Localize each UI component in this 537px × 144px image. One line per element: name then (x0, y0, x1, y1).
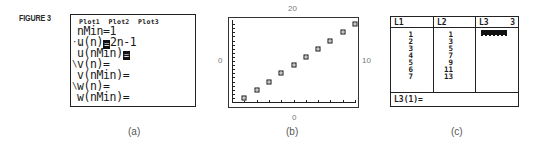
data-point (291, 63, 296, 68)
y-tick (232, 24, 235, 25)
caption-a: (a) (128, 126, 140, 137)
y-tick (232, 86, 235, 87)
caption-c: (c) (451, 126, 463, 137)
l3-cursor[interactable] (481, 30, 507, 35)
entry-line[interactable]: L3(1)= (394, 95, 423, 104)
graph-screen (228, 17, 359, 108)
plot-area (231, 20, 356, 105)
column-header-l1[interactable]: L1 (394, 18, 404, 27)
x-tick (294, 100, 295, 103)
data-point (266, 79, 271, 84)
caption-b: (b) (286, 126, 298, 137)
list-cell[interactable]: 13 (439, 73, 453, 80)
footer-divider (391, 92, 518, 93)
y-tick (232, 28, 235, 29)
y-tick (232, 94, 235, 95)
data-point (279, 71, 284, 76)
y-tick (232, 98, 235, 99)
y-tick (232, 49, 235, 50)
figure-label: FIGURE 3 (19, 13, 51, 23)
data-point (242, 95, 247, 100)
x-tick (343, 100, 344, 103)
xmin-label: 0 (218, 56, 222, 65)
sequence-editor-screen: Plot1 Plot2 Plot3 nMin=1 ·. u(n)=2n-1 u(… (70, 14, 196, 107)
column-header-l3[interactable]: L3 (479, 18, 489, 27)
y-tick (232, 82, 235, 83)
x-tick (355, 100, 356, 103)
list-editor-screen: L1 L2 L3 3 1234567 135791113 L3(1)= (390, 16, 519, 107)
x-tick (269, 100, 270, 103)
header-divider (391, 27, 518, 28)
y-tick (232, 61, 235, 62)
data-point (254, 87, 259, 92)
y-tick (232, 32, 235, 33)
y-tick (232, 45, 235, 46)
y-tick (232, 41, 235, 42)
column-header-l2[interactable]: L2 (437, 18, 447, 27)
data-point (316, 46, 321, 51)
ymax-label: 20 (288, 4, 297, 13)
ymin-label: 0 (292, 113, 296, 122)
y-tick (232, 53, 235, 54)
y-tick (232, 57, 235, 58)
data-point (303, 54, 308, 59)
y-tick (232, 90, 235, 91)
xmax-label: 10 (362, 56, 371, 65)
w-nmin-line[interactable]: w(nMin)= (77, 92, 129, 103)
y-tick (232, 73, 235, 74)
x-tick (318, 100, 319, 103)
y-tick (232, 65, 235, 66)
list-cell[interactable]: 7 (399, 73, 413, 80)
column-divider (475, 17, 476, 92)
x-tick (306, 100, 307, 103)
data-point (353, 22, 358, 27)
data-point (328, 38, 333, 43)
column-divider (433, 17, 434, 92)
y-tick (232, 77, 235, 78)
x-tick (257, 100, 258, 103)
x-tick (330, 100, 331, 103)
equals-highlight: = (123, 51, 130, 60)
x-tick (244, 100, 245, 103)
column-index: 3 (510, 18, 515, 27)
y-tick (232, 36, 235, 37)
x-tick (281, 100, 282, 103)
y-tick (232, 69, 235, 70)
data-point (340, 30, 345, 35)
